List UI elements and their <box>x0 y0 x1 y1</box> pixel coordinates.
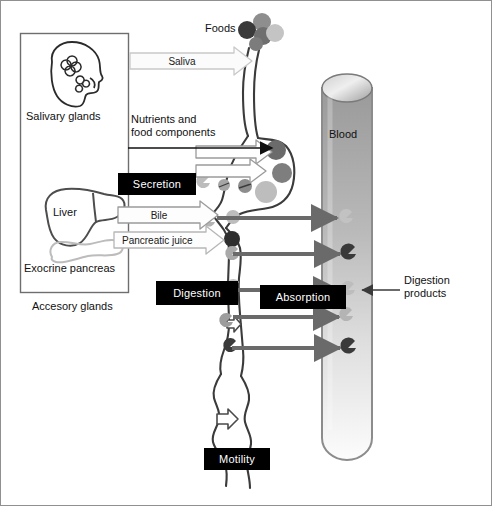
pancreatic-juice-arrow-label: Pancreatic juice <box>114 232 214 248</box>
foods-label: Foods <box>205 22 236 35</box>
saliva-arrow-label: Saliva <box>130 53 234 69</box>
bile-arrow-label: Bile <box>118 207 200 223</box>
accessory-glands-caption: Accesory glands <box>32 300 113 313</box>
exocrine-pancreas-label: Exocrine pancreas <box>24 262 115 275</box>
salivary-glands-label: Salivary glands <box>26 110 101 123</box>
diagram-svg <box>0 0 492 506</box>
secretion-box: Secretion <box>118 173 196 195</box>
digestion-box: Digestion <box>156 281 238 305</box>
digestion-products-label: Digestion products <box>404 274 450 300</box>
food-particles-cluster <box>238 13 284 51</box>
liver-label: Liver <box>53 206 77 219</box>
stomach-secretion-arrows <box>196 140 272 183</box>
absorption-box: Absorption <box>260 285 346 309</box>
accessory-glands-panel <box>21 34 129 293</box>
blood-label: Blood <box>329 128 357 141</box>
motility-box: Motility <box>204 448 270 470</box>
figure-canvas: Foods Blood Nutrients and food component… <box>0 0 492 506</box>
nutrients-label: Nutrients and food components <box>131 113 215 139</box>
